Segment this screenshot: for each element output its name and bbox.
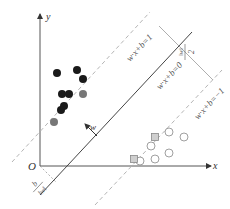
negative-point [151, 155, 159, 163]
negative-point [147, 142, 155, 150]
positive-point [73, 66, 81, 74]
positive-point [58, 90, 66, 98]
origin-label: O [28, 160, 36, 172]
negative-support-vector [152, 134, 159, 141]
offset-bracket [40, 166, 56, 182]
positive-point [53, 69, 61, 77]
negative-point [180, 133, 188, 141]
negative-point [165, 149, 173, 157]
margin-width-denominator: ‖w‖ [177, 48, 185, 57]
positive-support-vector [50, 118, 58, 126]
positive-margin-line [12, 12, 150, 162]
positive-point [60, 102, 68, 110]
y-axis-label: y [45, 11, 51, 22]
margin-width-numerator: 2 [187, 50, 196, 54]
svm-diagram: y x O w w·x+b=1 w·x+b=0 w·x+b=−1 2 ‖w‖ b… [0, 0, 230, 209]
hyperplane-label: w·x+b=0 [154, 60, 184, 92]
positive-point [65, 90, 73, 98]
x-axis-label: x [212, 160, 218, 171]
normal-vector-label: w [90, 122, 96, 132]
positive-margin-label: w·x+b=1 [124, 32, 154, 63]
positive-point [79, 75, 87, 83]
negative-support-vector [131, 156, 138, 163]
negative-margin-label: w·x+b=−1 [192, 86, 226, 122]
positive-support-vector [79, 90, 87, 98]
negative-point [165, 128, 173, 136]
